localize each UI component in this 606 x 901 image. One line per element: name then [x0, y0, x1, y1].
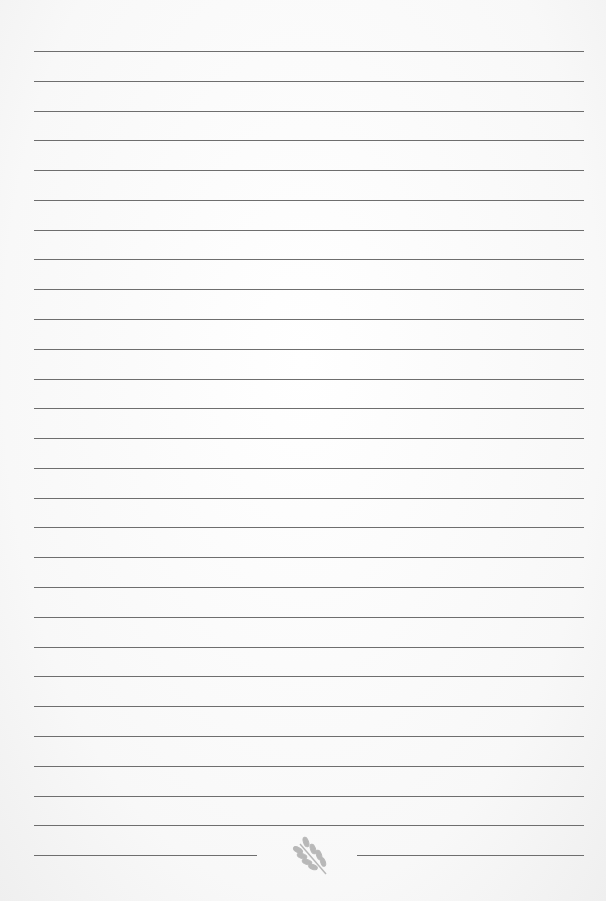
ruled-line [34, 527, 584, 528]
ruled-line [34, 349, 584, 350]
ruled-line [34, 676, 584, 677]
ruled-line [34, 766, 584, 767]
ruled-line [34, 468, 584, 469]
ruled-line [34, 230, 584, 231]
ruled-line [34, 200, 584, 201]
leaf-icon [290, 836, 334, 880]
ruled-line [34, 617, 584, 618]
ruled-line [34, 140, 584, 141]
ruled-line [34, 796, 584, 797]
ruled-line [34, 319, 584, 320]
ruled-line-split-right [357, 855, 584, 856]
ruled-line [34, 51, 584, 52]
ruled-line-split-left [34, 855, 257, 856]
ruled-line [34, 379, 584, 380]
ruled-line [34, 81, 584, 82]
ruled-line [34, 498, 584, 499]
ruled-line [34, 706, 584, 707]
ruled-line [34, 647, 584, 648]
ruled-line [34, 557, 584, 558]
ruled-line [34, 408, 584, 409]
ruled-line [34, 587, 584, 588]
ruled-line [34, 825, 584, 826]
ruled-line [34, 111, 584, 112]
ruled-line [34, 438, 584, 439]
lined-paper-page [0, 0, 606, 901]
ruled-line [34, 289, 584, 290]
ruled-line [34, 170, 584, 171]
ruled-line [34, 259, 584, 260]
ruled-line [34, 736, 584, 737]
